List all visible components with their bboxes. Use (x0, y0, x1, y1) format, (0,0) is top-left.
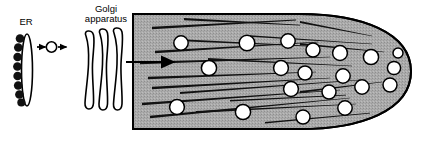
vesicle (338, 101, 352, 115)
golgi-cisterna (85, 31, 94, 109)
diagram-canvas: ER Golgi apparatus (0, 0, 426, 145)
ribosome-icon (13, 62, 22, 71)
vesicle (336, 69, 350, 83)
er-label: ER (19, 16, 32, 27)
vesicle (363, 49, 378, 64)
vesicle (296, 110, 310, 124)
ribosome-icon (14, 81, 23, 90)
vesicle (333, 46, 348, 61)
vesicle (355, 80, 369, 94)
ribosome-icon (15, 90, 24, 99)
vesicle (383, 78, 397, 92)
vesicle (174, 36, 188, 50)
golgi-label-line2: apparatus (85, 13, 128, 24)
vesicle (235, 104, 250, 119)
vesicle (274, 61, 289, 76)
vesicle (284, 82, 299, 97)
cell-transport-diagram: ER Golgi apparatus (0, 0, 426, 145)
cell-process (133, 14, 411, 129)
golgi-cisterna (99, 29, 108, 110)
vesicle (281, 34, 295, 48)
ribosome-icon (17, 98, 25, 106)
vesicle (306, 43, 320, 57)
vesicle (393, 48, 403, 58)
transport-vesicle (46, 42, 56, 52)
ribosome-icon (14, 43, 23, 52)
vesicle (298, 66, 312, 80)
vesicle (170, 100, 185, 115)
vesicle (239, 35, 255, 51)
vesicle (322, 85, 336, 99)
vesicle (387, 61, 400, 74)
ribosome-icon (13, 53, 22, 62)
endoplasmic-reticulum: ER (13, 16, 33, 107)
vesicle (201, 60, 216, 75)
golgi-cisterna (113, 28, 122, 110)
ribosome-icon (16, 34, 25, 43)
ribosome-icon (13, 72, 22, 81)
golgi-apparatus (85, 28, 123, 110)
